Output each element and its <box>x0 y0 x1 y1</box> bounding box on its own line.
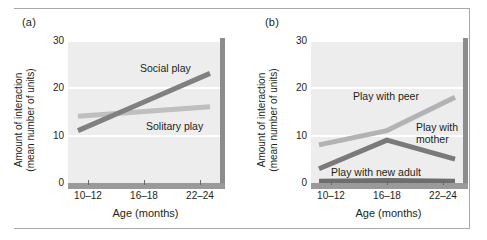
panel-b-xtick-mark-3 <box>443 180 444 185</box>
panel-a-ytick-0: 0 <box>2 178 64 188</box>
panel-a-right-wall <box>220 38 225 188</box>
panel-a-x-axis-band <box>68 183 225 189</box>
panel-b-ytick-0: 0 <box>245 178 307 188</box>
panel-b-xtick-label-3: 22–24 <box>413 190 473 201</box>
panel-a-xtick-mark-1 <box>88 180 89 185</box>
panel-b-ytick-20: 20 <box>245 83 307 93</box>
series-label-play-with-new-adult: Play with new adult <box>331 166 421 178</box>
series-label-solitary-play: Solitary play <box>146 120 203 132</box>
panel-a-ytick-20: 20 <box>2 83 64 93</box>
series-line-solitary-play <box>78 107 210 117</box>
panel-a-x-axis-title: Age (months) <box>58 207 233 219</box>
series-label-play-with-mother-line1: Play with <box>416 121 458 133</box>
panel-a-y-axis-title: Amount of interaction (mean number of un… <box>13 45 37 195</box>
panel-a-xtick-label-2: 16–18 <box>114 190 174 201</box>
series-label-play-with-mother: Play with mother <box>416 121 474 145</box>
panel-a-xtick-mark-2 <box>144 180 145 185</box>
panel-b-series-layer <box>311 40 463 183</box>
panel-b-y-axis: Amount of interaction (mean number of un… <box>243 8 307 229</box>
panel-b-x-axis-title: Age (months) <box>301 207 476 219</box>
panel-b-ytick-10: 10 <box>245 131 307 141</box>
panel-b-xtick-label-1: 10–12 <box>301 190 361 201</box>
series-label-play-with-peer: Play with peer <box>353 90 419 102</box>
panel-b-xtick-mark-2 <box>387 180 388 185</box>
panel-b-xtick-label-2: 16–18 <box>357 190 417 201</box>
panel-b: (b) Amount of interaction (mean number o… <box>243 8 486 229</box>
panel-b-right-wall <box>463 38 468 188</box>
panel-a-xtick-label-3: 22–24 <box>170 190 230 201</box>
series-label-play-with-mother-line2: mother <box>416 133 449 145</box>
panel-a-ytick-10: 10 <box>2 131 64 141</box>
panel-b-xtick-mark-1 <box>331 180 332 185</box>
figure-container: (a) Amount of interaction (mean number o… <box>0 0 487 240</box>
panel-a: (a) Amount of interaction (mean number o… <box>0 8 243 229</box>
panel-b-ytick-30: 30 <box>245 36 307 46</box>
series-label-social-play: Social play <box>140 62 191 74</box>
panel-a-xtick-label-1: 10–12 <box>58 190 118 201</box>
panel-b-x-axis-band <box>311 183 468 189</box>
panel-a-xtick-mark-3 <box>200 180 201 185</box>
panel-b-y-axis-title: Amount of interaction (mean number of un… <box>256 45 280 195</box>
panel-a-ytick-30: 30 <box>2 36 64 46</box>
panel-a-y-axis: Amount of interaction (mean number of un… <box>0 8 64 229</box>
